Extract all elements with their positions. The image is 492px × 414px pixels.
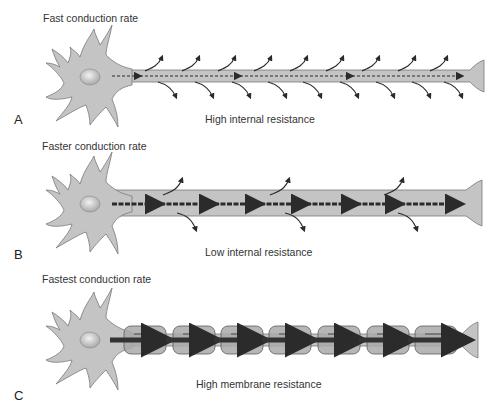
panel-a-neuron bbox=[46, 25, 484, 127]
panel-a-caption: High internal resistance bbox=[205, 113, 315, 125]
panel-a-letter: A bbox=[14, 112, 23, 127]
panel-c-title: Fastest conduction rate bbox=[42, 273, 151, 285]
panel-b-title: Faster conduction rate bbox=[42, 140, 146, 152]
panel-b-letter: B bbox=[14, 247, 23, 262]
panel-c-caption: High membrane resistance bbox=[196, 378, 321, 390]
panel-b-caption: Low internal resistance bbox=[205, 246, 312, 258]
panel-c-neuron bbox=[46, 288, 478, 390]
neuron-conduction-diagram bbox=[0, 0, 492, 414]
panel-c-letter: C bbox=[14, 388, 23, 403]
panel-a-title: Fast conduction rate bbox=[43, 12, 138, 24]
panel-b-neuron bbox=[46, 152, 482, 254]
